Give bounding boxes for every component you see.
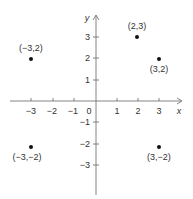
data-point xyxy=(29,145,33,149)
y-tick-label: 1 xyxy=(85,75,90,85)
data-point xyxy=(29,57,33,61)
x-tick-label: −2 xyxy=(47,106,57,116)
data-point xyxy=(157,57,161,61)
x-tick-label: 3 xyxy=(156,106,161,116)
x-tick-label: 1 xyxy=(114,106,119,116)
x-tick-label: −1 xyxy=(68,106,78,116)
point-label: (3,−2) xyxy=(147,152,171,162)
coordinate-plane: −3 −2 −1 0 1 2 3 x 3 2 1 −1 −2 −3 y (−3,… xyxy=(0,0,193,199)
point-label: (2,3) xyxy=(128,21,147,31)
y-tick-label: 2 xyxy=(85,53,90,63)
y-tick-label: −3 xyxy=(80,160,90,170)
x-tick-label: 0 xyxy=(86,106,91,116)
x-axis-label: x xyxy=(176,106,182,116)
data-point xyxy=(157,145,161,149)
x-tick-label: −3 xyxy=(26,106,36,116)
point-label: (−3,2) xyxy=(19,43,43,53)
data-point xyxy=(135,35,139,39)
x-ticks xyxy=(31,98,159,101)
y-tick-label: −2 xyxy=(80,139,90,149)
y-axis-label: y xyxy=(84,13,90,23)
y-tick-label: −1 xyxy=(80,117,90,127)
point-label: (3,2) xyxy=(150,64,169,74)
point-label: (−3,−2) xyxy=(12,152,41,162)
y-tick-label: 3 xyxy=(85,32,90,42)
x-tick-label: 2 xyxy=(135,106,140,116)
